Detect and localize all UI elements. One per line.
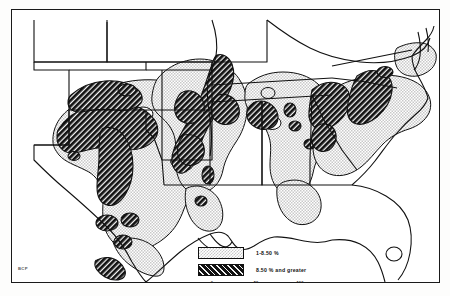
legend-label-light: 1-8.50 % <box>256 250 279 256</box>
lake-okeechobee <box>386 247 402 261</box>
boundary-kansas <box>107 22 212 62</box>
light-region-georgia-south <box>277 180 321 225</box>
coastline-florida-east <box>352 185 411 280</box>
dark-patch-south-texas-2 <box>121 213 139 227</box>
dark-patch-mississippi-2 <box>195 196 207 206</box>
legend-label-dark: 8.50 % and greater <box>256 267 306 273</box>
dark-patch-north-texas-small <box>118 84 136 96</box>
thematic-map-canvas <box>12 10 439 282</box>
dark-patch-mississippi-1 <box>202 166 214 184</box>
coastline-mississippi-delta <box>210 234 232 247</box>
scalebar-tick-100: 100 <box>297 280 304 283</box>
boundary-oklahoma-panhandle <box>69 62 146 70</box>
dark-patch-south-texas-1 <box>96 215 118 231</box>
map-scalebar: 0 50 100 scale-miles <box>208 280 304 283</box>
dark-region-georgia-lower <box>312 124 337 152</box>
light-island-tennessee <box>261 88 275 99</box>
map-credit: BCP <box>18 266 28 271</box>
map-border-frame: 1-8.50 % 8.50 % and greater 0 50 100 sca… <box>11 9 440 283</box>
light-region-louisiana-south <box>185 186 223 231</box>
legend-item-light: 1-8.50 % <box>198 246 348 259</box>
dark-region-arkansas-west <box>175 91 205 124</box>
dark-patch-alabama-1 <box>284 103 296 117</box>
scalebar-ticks: 0 50 100 <box>208 280 304 283</box>
dark-patch-alabama-2 <box>289 121 301 131</box>
map-legend: 1-8.50 % 8.50 % and greater <box>198 246 348 280</box>
legend-item-dark: 8.50 % and greater <box>198 263 348 276</box>
dark-patch-north-carolina <box>377 67 393 78</box>
legend-swatch-dark <box>198 264 244 276</box>
legend-swatch-light <box>198 247 244 259</box>
map-figure: 1-8.50 % 8.50 % and greater 0 50 100 sca… <box>0 0 450 296</box>
boundary-colorado <box>34 20 107 62</box>
scalebar-tick-50: 50 <box>254 280 259 283</box>
dark-patch-texas-small <box>68 152 80 161</box>
dark-region-rio-grande-valley <box>95 258 126 280</box>
dark-region-arkansas-south <box>178 134 205 165</box>
scalebar-tick-0: 0 <box>211 280 213 283</box>
